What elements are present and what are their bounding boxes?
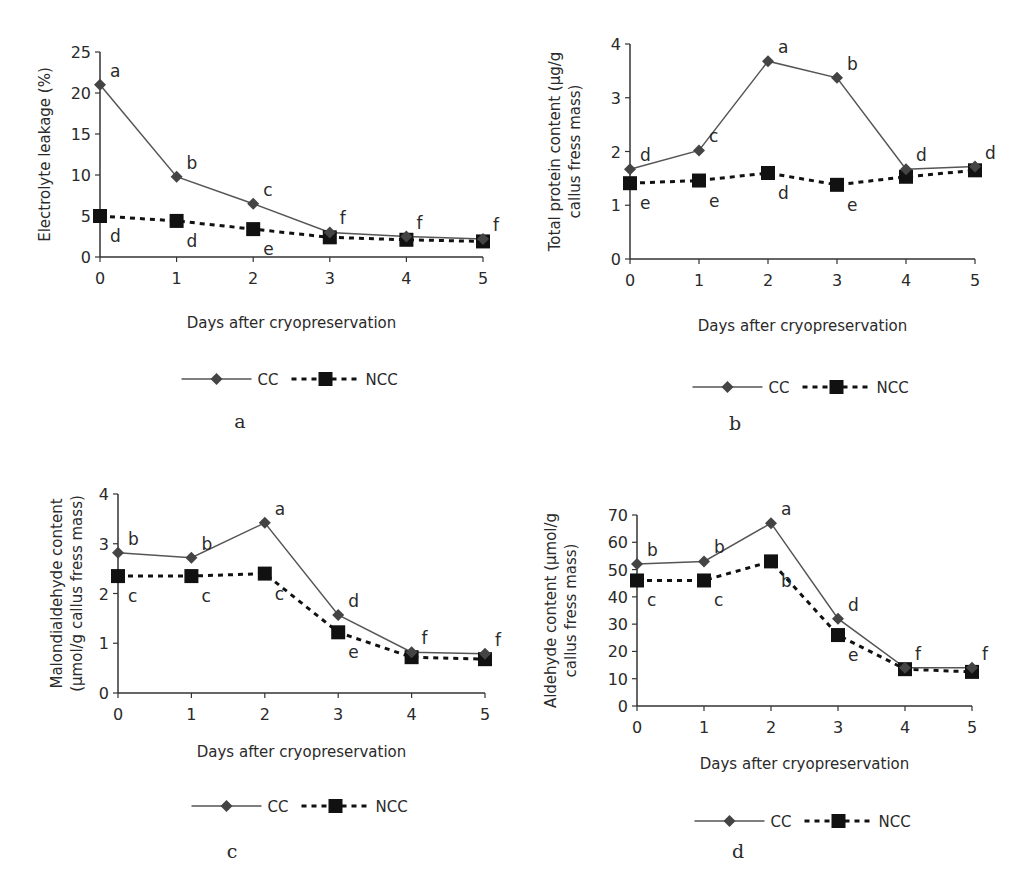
significance-letter: f [422,628,429,648]
ncc-square-marker [258,567,272,581]
significance-letter: b [647,540,658,560]
significance-letter: f [495,630,502,650]
y-tick-label: 2 [611,143,621,162]
legend-cc-label: CC [258,371,279,389]
x-axis-label: Days after cryopreservation [187,314,397,332]
y-axis-label: Aldehyde content (µmol/g [542,513,560,708]
significance-letter: d [640,145,651,165]
significance-letter: e [263,239,273,259]
ncc-square-marker [331,625,345,639]
y-tick-label: 20 [71,84,91,103]
panel-letter: c [227,840,238,862]
x-axis-label: Days after cryopreservation [698,317,908,335]
ncc-square-marker [170,214,184,228]
cc-line [100,85,483,239]
cc-diamond-marker [631,558,643,570]
y-tick-label: 4 [611,35,621,54]
chart-panel-b: 01234012345Total protein content (µg/gca… [520,0,1013,440]
chart-svg-a: 0510152025012345Electrolyte leakage (%)D… [0,0,520,440]
significance-letter: c [714,590,723,610]
legend: CCNCC [192,798,408,816]
panel-letter: b [729,412,741,434]
significance-letter: b [714,537,725,557]
x-tick-label: 0 [625,271,635,290]
x-axis-label: Days after cryopreservation [700,755,910,773]
chart-panel-a: 0510152025012345Electrolyte leakage (%)D… [0,0,520,440]
y-tick-label: 0 [618,697,628,716]
x-tick-label: 1 [694,271,704,290]
ncc-square-marker [184,569,198,583]
significance-letter: d [348,591,359,611]
ncc-square-marker [630,573,644,587]
chart-svg-b: 01234012345Total protein content (µg/gca… [520,0,1013,440]
y-tick-label: 10 [608,670,628,689]
significance-letter: a [275,499,285,519]
y-tick-label: 50 [608,561,628,580]
x-tick-label: 0 [113,705,123,724]
chart-svg-c: 01234012345Malondialdehyde content(µmol/… [0,440,520,886]
cc-diamond-marker [247,198,259,210]
legend-ncc-square-icon [329,799,343,813]
cc-diamond-marker [112,547,124,559]
y-tick-label: 4 [99,485,109,504]
significance-letter: b [128,529,139,549]
legend-ncc-label: NCC [877,379,909,397]
cc-diamond-marker [185,552,197,564]
significance-letter: d [916,145,927,165]
significance-letter: b [847,54,858,74]
x-tick-label: 1 [186,705,196,724]
x-tick-label: 3 [333,705,343,724]
ncc-square-marker [623,176,637,190]
legend: CCNCC [695,813,911,831]
legend-cc-diamond-icon [724,815,736,827]
y-tick-label: 20 [608,642,628,661]
significance-letter: c [275,584,284,604]
significance-letter: e [348,642,358,662]
x-tick-label: 5 [478,269,488,288]
legend-ncc-square-icon [830,380,844,394]
y-tick-label: 0 [611,250,621,269]
panel-letter: d [732,840,744,862]
x-tick-label: 1 [699,718,709,737]
y-tick-label: 5 [81,207,91,226]
y-tick-label: 15 [71,125,91,144]
significance-letter: d [778,183,789,203]
y-tick-label: 25 [71,43,91,62]
ncc-square-marker [830,178,844,192]
legend-cc-label: CC [268,798,289,816]
significance-letter: e [640,193,650,213]
significance-letter: b [187,153,198,173]
y-tick-label: 3 [99,535,109,554]
x-tick-label: 2 [766,718,776,737]
significance-letter: e [848,645,858,665]
x-tick-label: 0 [632,718,642,737]
significance-letter: f [340,208,347,228]
legend-ncc-label: NCC [879,813,911,831]
y-axis-label: Electrolyte leakage (%) [36,67,54,242]
y-tick-label: 70 [608,506,628,525]
significance-letter: a [781,499,791,519]
cc-diamond-marker [624,163,636,175]
significance-letter: f [915,644,922,664]
x-axis-label: Days after cryopreservation [197,743,407,761]
x-tick-label: 2 [260,705,270,724]
significance-letter: c [647,590,656,610]
y-tick-label: 2 [99,585,109,604]
legend-ncc-square-icon [319,372,333,386]
significance-letter: b [201,534,212,554]
significance-letter: d [187,231,198,251]
legend: CCNCC [693,379,909,397]
cc-diamond-marker [698,555,710,567]
significance-letter: c [709,126,718,146]
significance-letter: b [781,571,792,591]
y-axis-label: callus fress mass) [566,85,584,219]
ncc-line [630,170,975,185]
x-tick-label: 4 [900,718,910,737]
ncc-line [637,561,972,672]
cc-diamond-marker [831,72,843,84]
significance-letter: c [128,586,137,606]
x-tick-label: 5 [970,271,980,290]
significance-letter: d [848,595,859,615]
legend-ncc-square-icon [832,814,846,828]
y-tick-label: 40 [608,588,628,607]
